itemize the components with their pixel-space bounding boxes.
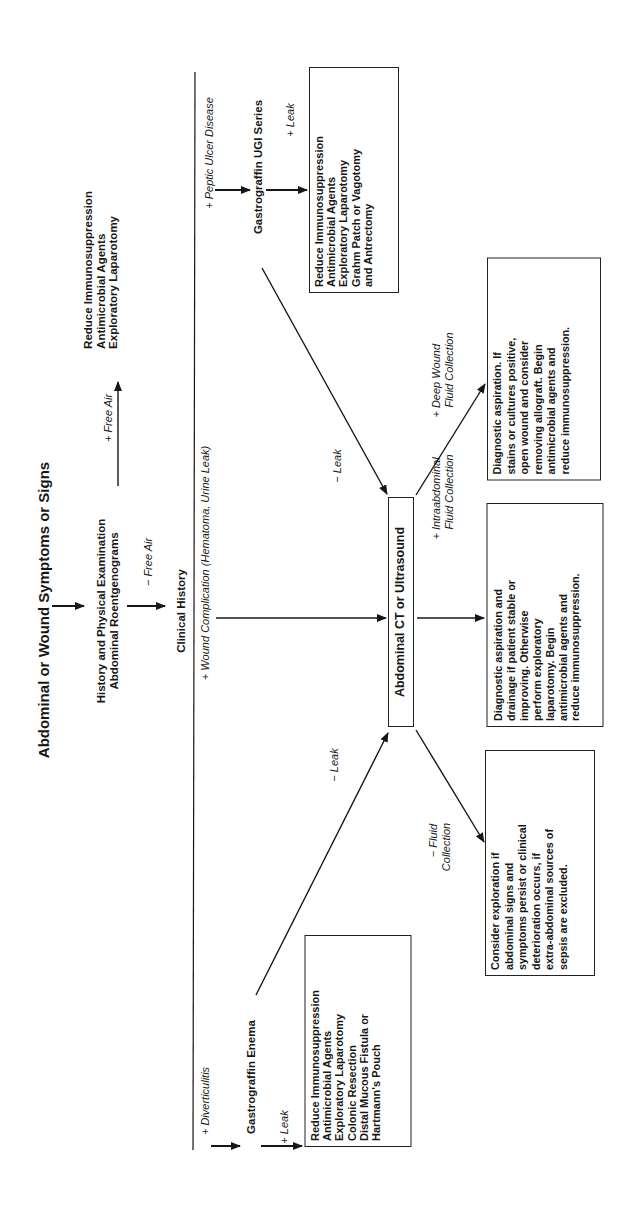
no-fluid-action-line-5: extra-abdominal sources of [543,756,557,970]
label-peptic-ulcer-disease: + Peptic Ulcer Disease [203,97,216,209]
no-fluid-action-line-1: Consider exploration if [489,756,503,970]
deep-wound-action-line-3: open wound and consider [518,264,532,475]
label-diverticulitis: + Diverticulitis [199,1067,212,1135]
intraabdominal-action-line-4: perform exploratory [530,509,543,721]
enema-leak-action-line-5: Distal Mucous Fistula or [357,941,369,1141]
free-air-action-line-1: Reduce Immunosuppression [82,191,95,349]
wound-complication-urine: Urine Leak [199,449,211,502]
node-free-air-action: Reduce Immunosuppression Antimicrobial A… [82,191,120,349]
node-history-physical: History and Physical Examination Abdomin… [95,519,120,704]
wound-complication-hematoma: Hematoma, [199,506,211,563]
intraabdominal-action-line-7: reduce immunosuppression. [569,509,582,721]
intraabdominal-action-line-1: Diagnostic aspiration and [492,509,505,721]
wound-complication-prefix: + Wound Complication ( [199,563,211,681]
no-fluid-action-line-3: symptoms persist or clinical [516,756,530,970]
deep-wound-action-line-6: reduce immunosuppression. [559,264,573,475]
deep-wound-action-line-2: stains or cultures positive, [505,264,519,475]
enema-leak-action-line-1: Reduce Immunosuppression [309,941,321,1141]
label-enema-minus-leak: − Leak [328,748,341,781]
node-gastrograffin-ugi: Gastrograffin UGI Series [252,100,265,234]
label-intraabdominal-fluid: + Intraabdominal Fluid Collection [430,454,456,539]
ugi-leak-action-line-3: Exploratory Laparotomy [337,73,349,287]
intraabdominal-action-line-5: laparotomy. Begin [543,509,556,721]
node-gastrograffin-enema: Gastrograffin Enema [245,1020,258,1134]
no-fluid-line-2: Collection [440,823,453,871]
box-enema-leak-action: Reduce Immunosuppression Antimicrobial A… [305,935,412,1147]
enema-leak-action-line-3: Exploratory Laparotomy [333,941,345,1141]
deep-wound-action-line-4: removing allograft. Begin [532,264,546,475]
deep-wound-action-line-5: antimicrobial agents and [545,264,559,475]
enema-leak-action-line-4: Colonic Resection [345,941,357,1141]
label-deep-wound-fluid: + Deep Wound Fluid Collection [430,332,456,417]
free-air-action-line-2: Antimicrobial Agents [95,191,108,349]
intraabdominal-action-line-6: antimicrobial agents and [556,509,569,721]
label-ugi-plus-leak: + Leak [284,103,297,136]
box-ugi-leak-action: Reduce Immunosuppression Antimicrobial A… [309,67,399,293]
box-deep-wound-action: Diagnostic aspiration. If stains or cult… [487,258,601,481]
enema-leak-action-line-6: Hartmann's Pouch [370,941,382,1141]
intraabdominal-action-line-3: improving. Otherwise [517,509,530,721]
box-abdominal-ct-ultrasound: Abdominal CT or Ultrasound [388,497,414,727]
label-enema-plus-leak: + Leak [278,1110,291,1143]
branch-divider-line [193,72,195,1150]
deep-wound-line-1: + Deep Wound [430,332,443,417]
node-history-line-2: Abdominal Roentgenograms [107,519,120,704]
arrow-ugi-minus-leak [262,268,387,494]
box-intraabdominal-action: Diagnostic aspiration and drainage if pa… [487,503,604,727]
label-plus-free-air: + Free Air [102,394,115,442]
intraabdominal-action-line-2: drainage if patient stable or [504,509,517,721]
ugi-leak-action-line-5: and Antrectomy [362,73,374,287]
ct-label: Abdominal CT or Ultrasound [391,504,409,720]
deep-wound-action-line-1: Diagnostic aspiration. If [491,264,505,475]
enema-leak-action-line-2: Antimicrobial Agents [321,941,333,1141]
deep-wound-line-2: Fluid Collection [443,332,456,417]
wound-complication-suffix: ) [199,446,211,450]
ugi-leak-action-line-4: Grahm Patch or Vagotomy [350,73,362,287]
no-fluid-action-line-4: deterioration occurs, if [530,756,544,970]
node-history-line-1: History and Physical Examination [95,519,108,704]
label-no-fluid-collection: − Fluid Collection [427,823,453,871]
box-no-fluid-action: Consider exploration if abdominal signs … [485,750,595,976]
ugi-leak-action-line-2: Antimicrobial Agents [325,73,337,287]
node-clinical-history: Clinical History [175,569,188,653]
flowchart-title: Abdominal or Wound Symptoms or Signs [35,462,52,758]
label-wound-complication: + Wound Complication (Hematoma, Urine Le… [199,446,212,681]
intraabdominal-line-1: + Intraabdominal [430,454,443,539]
free-air-action-line-3: Exploratory Laparotomy [107,191,120,349]
label-minus-free-air: − Free Air [142,538,155,586]
ugi-leak-action-line-1: Reduce Immunosuppression [313,73,325,287]
no-fluid-action-line-2: abdominal signs and [503,756,517,970]
no-fluid-action-line-6: sepsis are excluded. [557,756,571,970]
no-fluid-line-1: − Fluid [427,823,440,871]
intraabdominal-line-2: Fluid Collection [443,454,456,539]
label-ugi-minus-leak: − Leak [331,449,344,482]
